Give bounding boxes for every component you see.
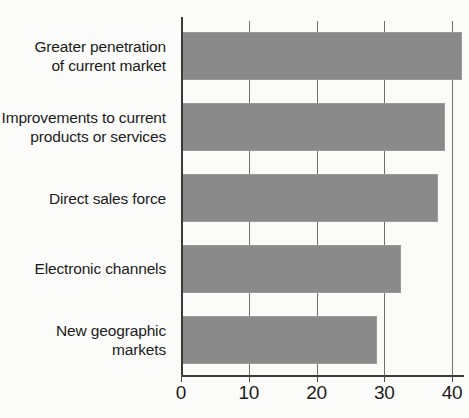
bar-chart: Greater penetration of current market Im… [0,0,469,418]
x-tick-label-4: 40 [442,382,463,404]
x-tick-label-1: 10 [238,382,259,404]
category-label-3: Electronic channels [0,259,166,278]
x-tick-label-2: 20 [306,382,327,404]
category-label-2: Direct sales force [0,189,166,208]
x-tick-1 [249,375,250,382]
x-tick-2 [317,375,318,382]
bar-0 [181,32,462,80]
x-tick-label-3: 30 [374,382,395,404]
bar-2 [181,174,438,222]
x-axis-tick-labels: 0 10 20 30 40 [0,382,469,412]
plot-area [181,21,453,375]
x-tick-0 [181,375,182,382]
x-tick-label-0: 0 [176,382,186,404]
category-label-1: Improvements to current products or serv… [0,108,166,146]
x-tick-3 [384,375,385,382]
category-labels: Greater penetration of current market Im… [0,21,172,375]
category-label-4: New geographic markets [0,321,166,359]
bar-4 [181,316,377,364]
y-axis-line [181,17,183,377]
bar-3 [181,245,401,293]
bar-1 [181,103,445,151]
category-label-0: Greater penetration of current market [0,37,166,75]
x-tick-4 [452,375,453,382]
x-axis-line [181,375,464,377]
